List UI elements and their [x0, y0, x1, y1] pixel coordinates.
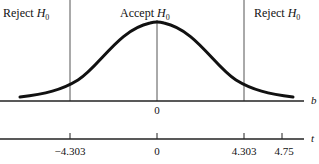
- t-tick-label: 4.75: [274, 146, 293, 157]
- t-tick-label: 0: [154, 146, 160, 157]
- accept-label: Accept H0: [120, 7, 170, 19]
- reject-left-label: Reject H0: [3, 7, 49, 19]
- b-axis-label: b: [311, 95, 317, 106]
- b-tick-label-0: 0: [154, 105, 160, 116]
- reject-right-label: Reject H0: [254, 7, 300, 19]
- t-axis-label: t: [311, 133, 314, 144]
- t-tick-label: 4.303: [232, 146, 257, 157]
- diagram-canvas: [0, 0, 319, 164]
- t-tick-label: −4.303: [55, 146, 86, 157]
